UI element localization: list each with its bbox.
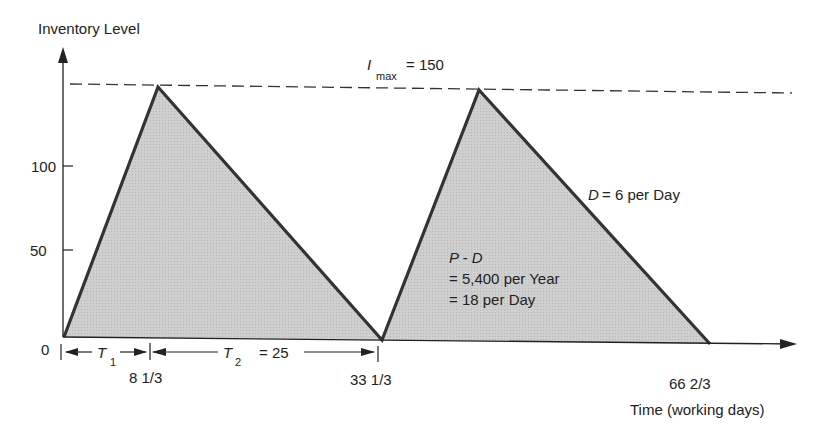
imax-dashed-line [70,84,792,93]
t2-sub: 2 [235,356,241,368]
x-axis-label: Time (working days) [630,401,764,418]
t1-var: T [97,344,108,361]
y-axis-label: Inventory Level [38,20,140,37]
x-tick-label-66-2-3: 66 2/3 [669,375,711,392]
rate-per-day: = 18 per Day [449,291,536,308]
t2-right-arrow-icon [361,348,375,356]
rate-per-year: = 5,400 per Year [449,270,560,287]
inventory-diagram: 100 50 0 Inventory Level I max = 150 T 1… [0,0,829,429]
t2-value: = 25 [259,344,289,361]
rate-label: P - D [449,249,483,266]
imax-sub: max [376,70,397,82]
t2-var: T [223,344,234,361]
y-tick-label-100: 100 [31,158,56,175]
y-axis-arrow-icon [58,47,68,63]
t1-left-arrow-icon [65,348,78,356]
t1-sub: 1 [110,356,116,368]
demand-var: D [588,186,599,203]
x-tick-label-8-1-3: 8 1/3 [129,369,162,386]
t2-left-arrow-icon [152,348,166,356]
x-axis-arrow-icon [780,339,797,349]
y-tick-label-50: 50 [30,242,47,259]
y-tick-label-0: 0 [41,341,49,358]
t1-right-arrow-icon [134,348,147,356]
imax-value: = 150 [406,56,444,73]
imax-var: I [367,56,371,73]
x-tick-label-33-1-3: 33 1/3 [350,371,392,388]
demand-value: = 6 per Day [602,186,680,203]
